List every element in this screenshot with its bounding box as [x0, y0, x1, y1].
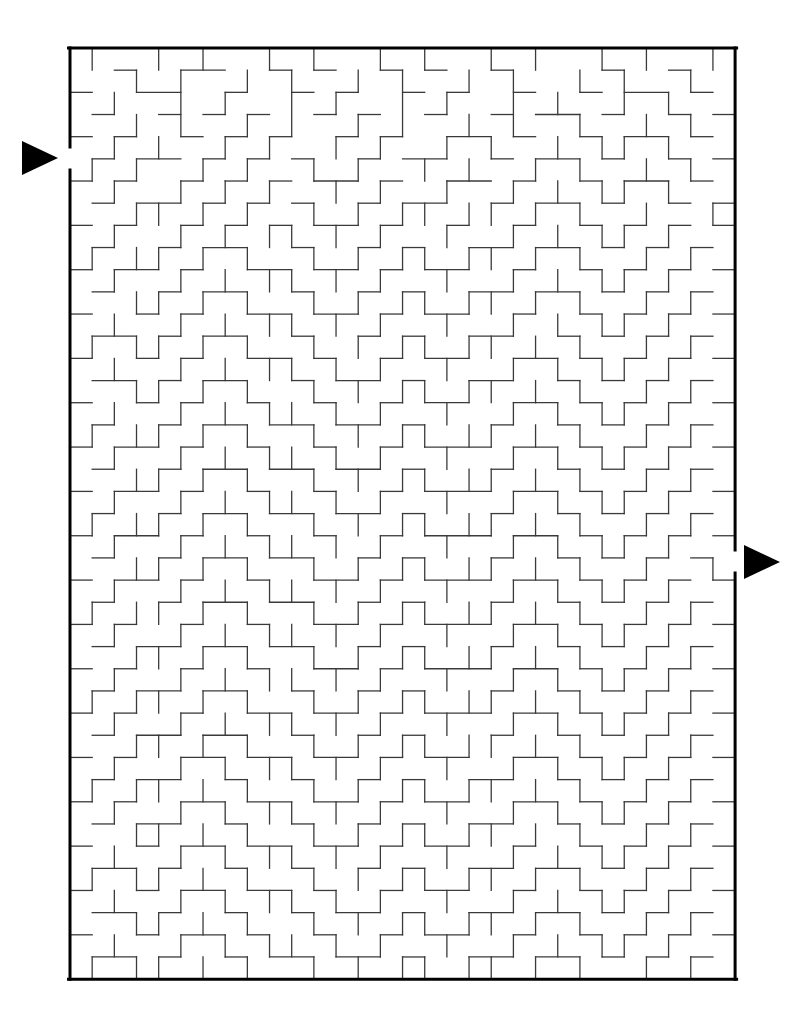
maze-canvas	[0, 0, 809, 1023]
exit-arrow	[744, 545, 780, 579]
maze-interior-walls	[70, 48, 735, 979]
entrance-arrow	[22, 141, 58, 175]
maze-page	[0, 0, 809, 1023]
